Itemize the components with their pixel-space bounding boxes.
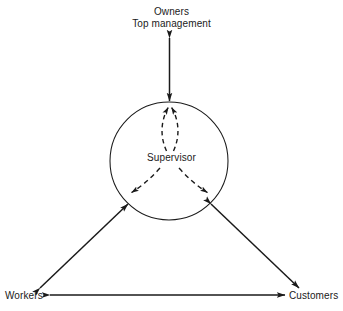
dashed-supervisor-up-left	[162, 108, 168, 152]
diagram-root: Owners Top management Supervisor Workers…	[0, 0, 343, 311]
top-management-text: Top management	[0, 18, 343, 30]
edge-supervisor-workers	[40, 204, 128, 288]
node-label-customers: Customers	[289, 290, 338, 302]
node-label-supervisor: Supervisor	[0, 152, 343, 164]
owners-text: Owners	[0, 6, 343, 18]
node-label-top-management: Owners Top management	[0, 6, 343, 30]
node-label-workers: Workers	[5, 290, 43, 302]
dashed-supervisor-down-right	[179, 168, 208, 193]
dashed-supervisor-down-left	[132, 168, 161, 193]
edge-supervisor-customers	[211, 204, 299, 288]
dashed-supervisor-up-right	[172, 108, 178, 152]
